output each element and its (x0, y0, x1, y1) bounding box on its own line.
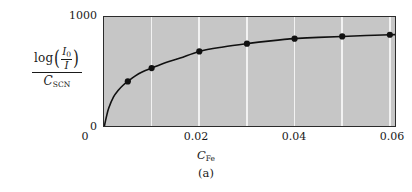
x-tick-label-0: 0 (60, 130, 110, 143)
data-curve-svg (104, 17, 396, 127)
x-tick-label-002: 0.02 (171, 130, 221, 143)
data-point-marker (291, 36, 297, 42)
intensity-ratio-fraction: I0 I (61, 46, 72, 71)
data-point-marker (196, 48, 202, 54)
data-curve (104, 35, 396, 127)
data-point-marker (125, 78, 131, 84)
paren-open: ( (54, 50, 60, 66)
data-point-marker (387, 32, 393, 38)
intensity-initial: I0 (61, 46, 72, 59)
y-axis-label: log( I0 I ) CSCN (14, 46, 100, 88)
data-point-marker (244, 41, 250, 47)
data-point-marker (149, 65, 155, 71)
figure-panel: log( I0 I ) CSCN 1000 0 0 0.02 0.04 0.06… (0, 0, 412, 192)
data-point-markers (125, 32, 393, 85)
log-text: log (34, 51, 53, 65)
x-tick-label-004: 0.04 (269, 130, 319, 143)
y-tick-label-1000: 1000 (69, 9, 97, 22)
intensity-transmitted: I (61, 60, 72, 71)
paren-close: ) (73, 50, 79, 66)
x-tick-label-006: 0.06 (367, 130, 412, 143)
data-point-marker (339, 33, 345, 39)
plot-area (103, 16, 396, 127)
y-axis-label-fraction: log( I0 I ) CSCN (32, 46, 82, 88)
y-axis-label-numerator: log( I0 I ) (32, 46, 82, 72)
x-axis-label: CFe (0, 148, 412, 163)
figure-caption: (a) (0, 166, 412, 180)
x-axis-label-symbol: C (197, 148, 206, 162)
y-axis-label-denominator: CSCN (32, 73, 82, 88)
x-axis-label-subscript: Fe (206, 154, 215, 163)
